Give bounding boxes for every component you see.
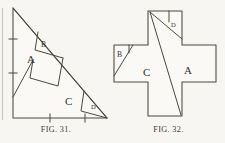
caption-fig-32: FIG. 32. [112, 125, 225, 134]
caption-fig-32-text: FIG. 32. [153, 125, 183, 134]
fig31-label-a: A [27, 53, 35, 65]
fig31-label-d: D [91, 103, 96, 110]
fig32-label-a: A [184, 64, 192, 76]
fig31-label-c: C [65, 95, 72, 107]
fig32-label-c: C [143, 66, 150, 78]
caption-fig-31: FIG. 31. [0, 125, 112, 134]
fig32-label-d: D [171, 21, 176, 28]
caption-fig-31-text: FIG. 31. [41, 125, 71, 134]
figure-plate: A B C D A B C D FIG. 31. FIG. [0, 0, 225, 143]
fig-32-group: A B C D [114, 11, 216, 116]
plate-drawing: A B C D A B C D [0, 0, 225, 143]
fig-31-group: A B C D [9, 8, 108, 123]
fig32-label-b: B [117, 50, 122, 59]
fig31-label-b: B [41, 40, 46, 49]
